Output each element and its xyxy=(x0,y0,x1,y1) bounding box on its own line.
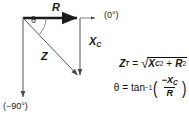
theta-angle-arc xyxy=(40,18,47,34)
radicand-plus: + xyxy=(166,58,172,69)
axis-label-neg-ninety-deg: (−90°) xyxy=(3,102,28,111)
vector-label-R: R xyxy=(52,2,60,13)
formula-impedance-lhs-sub: T xyxy=(125,60,129,67)
fraction-numerator-sub: C xyxy=(173,79,178,86)
angle-label-theta: θ xyxy=(31,16,36,25)
formula-phase: θ = tan−1 ( −XC R ) xyxy=(100,74,189,100)
radicand: XC2+R2 xyxy=(147,57,187,70)
vector-label-Z: Z xyxy=(41,51,48,62)
vector-diagram-figure: R Z XC θ (0°) (−90°) ZT = √ XC2+R2 θ = t… xyxy=(0,0,189,121)
left-paren-icon: ( xyxy=(153,78,157,97)
vector-Z-line xyxy=(23,18,78,75)
radical-group: √ XC2+R2 xyxy=(141,57,187,70)
right-paren-icon: ) xyxy=(182,78,186,97)
vector-label-XC-sub: C xyxy=(96,41,101,48)
radicand-R-sup: 2 xyxy=(182,60,186,67)
radicand-XC-sup: 2 xyxy=(160,60,164,67)
axis-label-zero-deg: (0°) xyxy=(104,11,119,20)
vector-label-XC: XC xyxy=(89,36,101,48)
formula-phase-lhs: θ xyxy=(114,82,120,93)
formula-block: ZT = √ XC2+R2 θ = tan−1 ( −XC R ) xyxy=(100,52,189,100)
fraction-denominator: R xyxy=(164,87,175,98)
formula-impedance-equals: = xyxy=(132,58,138,69)
formula-phase-equals: = xyxy=(122,82,128,93)
formula-phase-func-sup: −1 xyxy=(145,84,152,91)
fraction-numerator: −XC xyxy=(160,76,180,88)
fraction-group: −XC R xyxy=(160,76,180,99)
formula-phase-func: tan xyxy=(131,82,145,93)
formula-impedance: ZT = √ XC2+R2 xyxy=(100,52,189,74)
fraction-numerator-base: −X xyxy=(162,75,173,85)
radicand-R: R xyxy=(175,58,182,69)
radicand-XC: X xyxy=(148,58,155,69)
